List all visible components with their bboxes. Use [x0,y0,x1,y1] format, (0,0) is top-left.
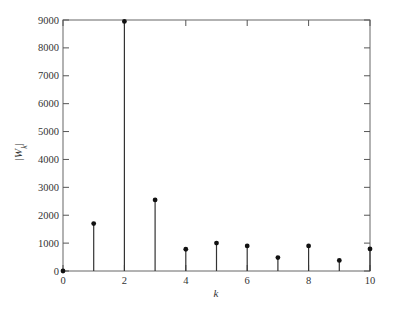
y-tick-label: 9000 [38,15,59,26]
y-axis-label-close: | [12,143,24,145]
x-tick-label: 0 [60,275,65,286]
y-tick-label: 3000 [38,182,59,193]
y-tick-label: 2000 [38,210,59,221]
stem-marker [183,247,188,252]
y-tick-label: 1000 [38,238,59,249]
stem-marker [214,241,219,246]
y-tick-label: 4000 [38,154,59,165]
x-axis-label: k [214,287,220,299]
stem-marker [337,258,342,263]
stem-marker [245,244,250,249]
y-axis-label: |Wk| [12,143,29,161]
stem-marker [122,19,127,24]
y-axis-ticks: 0100020003000400050006000700080009000 [38,15,370,277]
x-tick-label: 4 [183,275,189,286]
stem-marker [306,244,311,249]
svg-text:|Wk|: |Wk| [12,143,29,161]
y-tick-label: 8000 [38,42,59,53]
y-tick-label: 0 [54,266,59,277]
plot-frame [63,20,370,271]
x-tick-label: 6 [245,275,250,286]
stem-marker [91,221,96,226]
x-axis-ticks: 0246810 [60,20,375,286]
stem-marker [368,247,373,252]
stem-marker [61,269,66,274]
y-tick-label: 7000 [38,70,59,81]
stem-marker [153,197,158,202]
y-axis-label-main: |W [12,148,24,161]
stem-chart: 0100020003000400050006000700080009000 02… [0,0,397,311]
stem-marker [276,255,281,260]
y-tick-label: 5000 [38,126,59,137]
x-tick-label: 2 [122,275,127,286]
x-tick-label: 10 [365,275,376,286]
stems [61,19,373,273]
x-tick-label: 8 [306,275,311,286]
y-tick-label: 6000 [38,98,59,109]
